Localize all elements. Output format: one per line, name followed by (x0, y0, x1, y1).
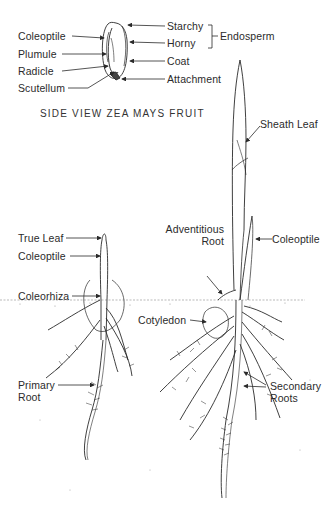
label-cotyledon: Cotyledon (138, 314, 186, 326)
kernel-caption: SIDE VIEW ZEA MAYS FRUIT (40, 108, 205, 119)
label-secondary-roots-1: Secondary (270, 380, 321, 392)
label-adventitious-2: Root (152, 235, 224, 247)
label-endosperm: Endosperm (220, 30, 275, 42)
label-horny: Horny (167, 37, 196, 49)
label-attachment: Attachment (167, 73, 221, 85)
label-plumule: Plumule (18, 48, 57, 60)
label-coleoptile-kernel: Coleoptile (18, 30, 66, 42)
label-coleoptile-young: Coleoptile (18, 250, 66, 262)
label-primary-root-1: Primary (18, 379, 55, 391)
label-adventitious-1: Adventitious (152, 223, 224, 235)
label-scutellum: Scutellum (18, 82, 65, 94)
soil-surface (0, 300, 311, 491)
label-coleorhiza: Coleorhiza (18, 290, 69, 302)
kernel-drawing (102, 22, 127, 80)
young-seedling-drawing (46, 234, 134, 460)
label-radicle: Radicle (18, 65, 54, 77)
label-coat: Coat (167, 55, 190, 67)
label-coleoptile-older: Coleoptile (272, 233, 320, 245)
older-seedling-leader-lines (190, 126, 272, 387)
label-sheath-leaf: Sheath Leaf (260, 118, 318, 130)
label-starchy: Starchy (167, 20, 203, 32)
label-secondary-roots-2: Roots (270, 392, 298, 404)
label-true-leaf: True Leaf (18, 232, 63, 244)
label-primary-root-2: Root (18, 391, 41, 403)
